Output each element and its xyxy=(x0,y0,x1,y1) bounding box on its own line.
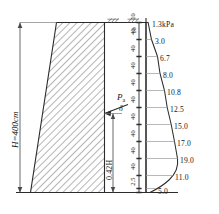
wall-height-dimension xyxy=(18,23,23,193)
pressure-label-9: 11.0 xyxy=(175,173,189,182)
retaining-wall-body xyxy=(31,23,105,193)
dimension-segment-2: 40 xyxy=(129,42,136,56)
pressure-label-6: 15.0 xyxy=(174,122,188,131)
pressure-label-2: 6.7 xyxy=(160,54,170,63)
pressure-label-1: 3.0 xyxy=(155,37,165,46)
resultant-lever-dimension xyxy=(111,114,115,193)
ground-hatch-icon xyxy=(108,19,119,23)
pressure-label-4: 10.8 xyxy=(167,88,181,97)
dimension-segment-10: 2.5 xyxy=(129,174,136,190)
resultant-lever-label: 0.42H xyxy=(105,160,114,180)
resultant-force-arrow xyxy=(105,105,129,117)
dimension-segment-1: 40 xyxy=(129,25,136,39)
wall-height-label: H=400cm xyxy=(10,111,20,148)
segment-dimension-chain xyxy=(136,23,141,193)
dimension-segment-4: 40 xyxy=(129,76,136,90)
resultant-force-label: Pa xyxy=(117,92,125,102)
pressure-label-7: 17.0 xyxy=(177,139,191,148)
figure-canvas: H=400cm 0.42H Pa δ 10 10 40 40 40 40 40 … xyxy=(0,0,219,214)
dimension-segment-9: 40 xyxy=(129,160,136,174)
dimension-segment-3: 40 xyxy=(129,59,136,73)
pressure-label-5: 12.5 xyxy=(170,105,184,114)
dimension-segment-top: 10 xyxy=(129,10,136,24)
pressure-label-0: 1.3kPa xyxy=(152,20,174,29)
pressure-label-3: 8.0 xyxy=(163,71,173,80)
dimension-segment-5: 40 xyxy=(129,93,136,107)
retaining-wall-pressure-diagram xyxy=(0,0,219,214)
pressure-label-8: 19.0 xyxy=(180,156,194,165)
dimension-segment-7: 40 xyxy=(129,127,136,141)
pressure-label-10: 5.0 xyxy=(158,187,168,196)
resultant-force-subscript: a xyxy=(123,97,126,103)
friction-angle-label: δ xyxy=(119,104,123,113)
resultant-force-symbol: P xyxy=(117,92,123,102)
dimension-segment-8: 40 xyxy=(129,144,136,158)
dimension-segment-6: 40 xyxy=(129,110,136,124)
